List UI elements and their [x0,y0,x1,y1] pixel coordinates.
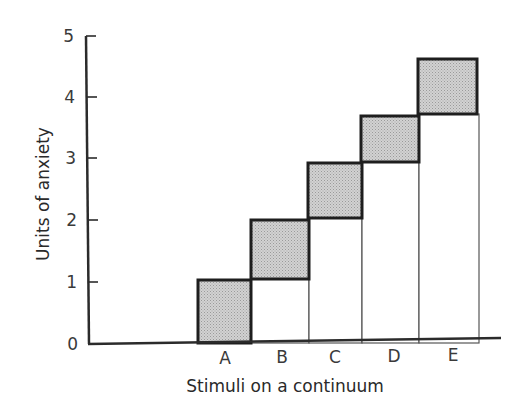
y-tick-labels: 5 4 3 2 1 0 [63,26,78,354]
y-tick-5: 5 [63,26,74,46]
y-axis [86,36,89,344]
x-label-b: B [276,347,288,367]
x-label-d: D [387,346,400,366]
bar-e-increment [418,59,477,114]
y-tick-2: 2 [66,210,77,230]
x-label-a: A [219,348,231,368]
y-tick-0: 0 [67,334,78,354]
bar-b-base [251,279,309,343]
y-tick-1: 1 [66,272,77,292]
bar-e-base [419,114,479,343]
bar-c-base [309,218,362,343]
step-bar-chart: Units of anxiety 5 4 3 2 1 0 [0,0,520,410]
y-tick-4: 4 [64,87,75,107]
y-tick-3: 3 [65,148,76,168]
bar-a-increment [198,280,251,343]
y-axis-label: Units of anxiety [33,127,53,261]
x-axis-label: Stimuli on a continuum [186,376,384,396]
bar-c-increment [308,163,362,218]
bar-b-increment [251,220,309,279]
x-label-c: C [329,347,341,367]
x-label-e: E [448,345,459,365]
bar-d-increment [361,116,419,162]
x-tick-labels: A B C D E [219,345,458,368]
bar-d-base [362,162,419,343]
